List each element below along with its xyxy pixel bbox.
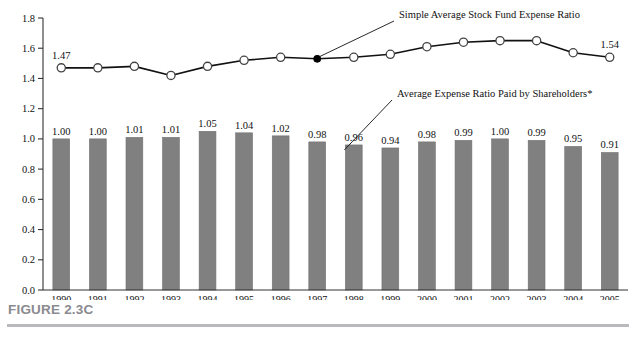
bar [272, 136, 289, 290]
bar-value-label: 1.05 [198, 118, 216, 129]
bar [601, 152, 618, 290]
x-axis: 1990199119921993199419951996199719981999… [43, 290, 628, 300]
line-series-callout-label: Simple Average Stock Fund Expense Ratio [399, 9, 580, 20]
figure-caption-block: FIGURE 2.3C [0, 300, 636, 338]
bar [382, 148, 399, 290]
line-series: 1.471.54 [52, 37, 620, 80]
bar-value-label: 1.01 [162, 124, 180, 135]
line-path [61, 41, 609, 76]
line-endpoint-value-label: 1.54 [601, 39, 620, 50]
y-axis-tick-label: 0.8 [22, 164, 35, 175]
bar [345, 145, 362, 290]
figure-root: 0.00.20.40.60.81.01.21.41.61.8 1.001.001… [0, 0, 636, 338]
caption-divider [7, 324, 629, 327]
bar [492, 139, 509, 290]
bar [236, 133, 253, 290]
line-marker [203, 62, 211, 70]
figure-caption-text: FIGURE 2.3C [8, 302, 93, 317]
bar [418, 142, 435, 290]
y-axis-tick-label: 0.4 [22, 224, 36, 235]
bar-value-label: 0.95 [564, 133, 582, 144]
y-axis-tick-label: 1.8 [22, 13, 35, 24]
line-marker [532, 37, 540, 45]
line-marker [277, 53, 285, 61]
bar [163, 137, 180, 290]
bar-value-label: 0.99 [454, 127, 472, 138]
line-endpoint-value-label: 1.47 [52, 50, 70, 61]
y-axis: 0.00.20.40.60.81.01.21.41.61.8 [22, 13, 43, 296]
y-axis-tick-label: 1.2 [22, 103, 35, 114]
line-marker [569, 49, 577, 57]
bar-value-label: 1.02 [271, 123, 289, 134]
line-marker [94, 64, 102, 72]
bar [309, 142, 326, 290]
line-marker [459, 38, 467, 46]
bar [199, 131, 216, 290]
bar [53, 139, 70, 290]
bar-value-label: 1.00 [491, 126, 509, 137]
bar-value-label: 1.01 [125, 124, 143, 135]
bar-series-callout-label: Average Expense Ratio Paid by Shareholde… [397, 88, 592, 99]
line-marker [496, 37, 504, 45]
y-axis-tick-label: 1.6 [22, 43, 35, 54]
bar [528, 140, 545, 290]
line-marker [130, 62, 138, 70]
y-axis-tick-label: 0.6 [22, 194, 35, 205]
y-axis-tick-label: 0.2 [22, 254, 35, 265]
bar-value-label: 0.91 [601, 139, 619, 150]
line-marker [350, 53, 358, 61]
line-marker [167, 71, 175, 79]
bar-series: 1.001.001.011.011.051.041.020.980.960.94… [52, 118, 619, 290]
bar-value-label: 1.00 [89, 126, 107, 137]
bar-value-label: 1.00 [52, 126, 70, 137]
line-marker [606, 53, 614, 61]
bar-value-label: 0.98 [418, 129, 436, 140]
bar [89, 139, 106, 290]
y-axis-tick-label: 0.0 [22, 285, 35, 296]
chart-area: 0.00.20.40.60.81.01.21.41.61.8 1.001.001… [0, 0, 636, 300]
bar [126, 137, 143, 290]
line-marker [57, 64, 65, 72]
line-marker [386, 50, 394, 58]
bar-value-label: 0.94 [381, 135, 400, 146]
y-axis-tick-label: 1.4 [22, 73, 36, 84]
bar-value-label: 0.99 [527, 127, 545, 138]
y-axis-tick-label: 1.0 [22, 133, 35, 144]
line-series-callout-leader [319, 21, 394, 57]
bar-value-label: 0.98 [308, 129, 326, 140]
bar [455, 140, 472, 290]
line-marker [423, 43, 431, 51]
bar [565, 146, 582, 290]
expense-ratio-chart: 0.00.20.40.60.81.01.21.41.61.8 1.001.001… [0, 0, 636, 300]
line-marker [240, 56, 248, 64]
bar-value-label: 1.04 [235, 120, 254, 131]
